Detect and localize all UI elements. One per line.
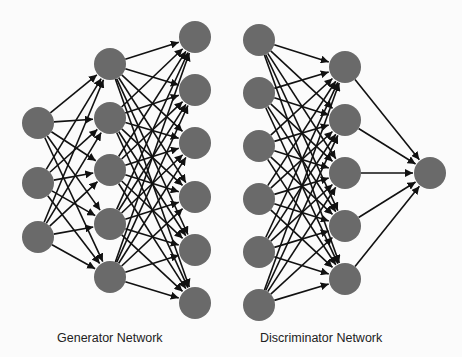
nodes (22, 21, 446, 321)
discriminator-layer1-node (329, 210, 361, 242)
discriminator-connection-arrow (274, 284, 328, 300)
generator-layer0-node (22, 221, 54, 253)
discriminator-layer0-node (243, 24, 275, 56)
discriminator-connection-arrow (355, 79, 419, 159)
discriminator-layer1-node (329, 157, 361, 189)
discriminator-connection-arrow (359, 182, 416, 218)
generator-connection-arrow (117, 52, 188, 209)
generator-layer2-node (179, 21, 211, 53)
discriminator-layer0-node (243, 130, 275, 162)
generator-layer0-node (22, 167, 54, 199)
generator-connection-arrow (115, 53, 189, 262)
generator-layer1-node (94, 208, 126, 240)
network-graph (0, 0, 462, 357)
discriminator-network-label: Discriminator Network (260, 331, 382, 345)
generator-connection-arrow (46, 79, 101, 170)
generator-layer1-node (94, 48, 126, 80)
discriminator-connection-arrow (264, 83, 339, 290)
generator-layer0-node (22, 107, 54, 139)
discriminator-connection-arrow (268, 187, 336, 291)
discriminator-layer0-node (243, 236, 275, 268)
discriminator-connection-arrow (355, 186, 419, 266)
discriminator-layer0-node (243, 77, 275, 109)
discriminator-layer0-node (243, 289, 275, 321)
generator-layer2-node (179, 127, 211, 159)
generator-layer2-node (179, 74, 211, 106)
generator-connection-arrow (50, 75, 96, 113)
generator-layer2-node (179, 181, 211, 213)
generator-layer1-node (94, 154, 126, 186)
discriminator-layer1-node (329, 263, 361, 295)
generator-network-label: Generator Network (57, 331, 163, 345)
generator-connection-arrow (125, 282, 178, 298)
discriminator-layer0-node (243, 183, 275, 215)
discriminator-layer1-node (329, 51, 361, 83)
generator-connection-arrow (125, 42, 179, 59)
discriminator-layer1-node (329, 104, 361, 136)
generator-layer2-node (179, 234, 211, 266)
generator-layer1-node (94, 261, 126, 293)
discriminator-connection-arrow (274, 45, 329, 62)
generator-connection-arrow (48, 196, 100, 264)
generator-layer1-node (94, 102, 126, 134)
gan-diagram: Generator Network Discriminator Network (0, 0, 462, 357)
discriminator-connection-arrow (274, 72, 328, 88)
generator-layer2-node (179, 287, 211, 319)
generator-connection-arrow (50, 182, 98, 227)
discriminator-connection-arrow (359, 128, 416, 164)
discriminator-layer2-node (414, 157, 446, 189)
